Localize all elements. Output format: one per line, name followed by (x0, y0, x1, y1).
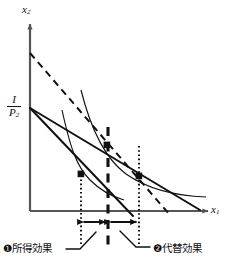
tangency-point-right (136, 173, 143, 180)
budget-lines-group (30, 53, 200, 216)
compensated-budget-line (30, 53, 169, 214)
y-axis-label-subscript: 2 (27, 8, 31, 16)
indifference-curves-group (62, 90, 206, 200)
y-intercept-numerator: I (7, 94, 21, 106)
y-axis-label: x2 (22, 4, 30, 16)
x-axis-label: x1 (211, 204, 219, 216)
y-intercept-denominator-subscript: 2 (16, 111, 20, 119)
substitution-effect-leader (120, 231, 150, 247)
new-budget-line (30, 108, 133, 216)
figure-canvas (0, 0, 228, 264)
income-effect-text: 所得効果 (12, 242, 52, 254)
substitution-effect-marker: ❷ (153, 242, 162, 254)
substitution-effect-text: 代替効果 (162, 242, 202, 254)
original-budget-line (30, 108, 200, 210)
y-intercept-label: I P2 (7, 94, 21, 119)
income-effect-marker: ❶ (3, 242, 12, 254)
tangency-point-middle (104, 142, 111, 149)
axes-group (30, 24, 208, 211)
y-intercept-denominator-base: P (9, 106, 16, 118)
substitution-effect-label: ❷代替効果 (153, 243, 202, 254)
tangency-points-group (78, 142, 143, 180)
lower-indifference-curve (62, 110, 124, 200)
income-effect-label: ❶所得効果 (3, 243, 52, 254)
x-axis-label-subscript: 1 (216, 208, 220, 216)
y-intercept-denominator: P2 (7, 107, 21, 120)
indifference-curve-figure: x2 x1 I P2 ❶所得効果 ❷代替効果 (0, 0, 228, 264)
tangency-point-left (78, 171, 85, 178)
